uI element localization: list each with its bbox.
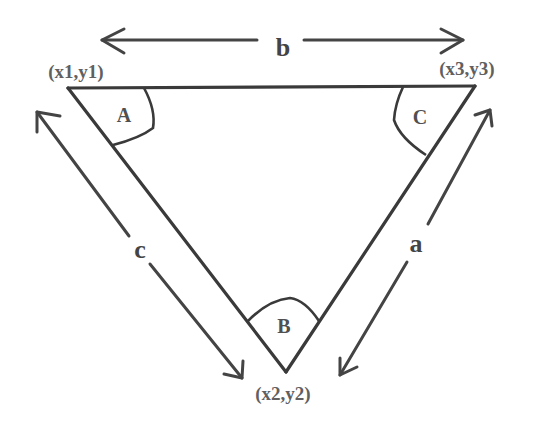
vertex-3-label: (x3,y3) <box>439 58 494 80</box>
side-c-label: c <box>134 235 146 264</box>
angle-c-label: C <box>413 106 427 128</box>
side-a-edge <box>286 86 475 372</box>
side-b-edge <box>68 86 475 88</box>
side-a-label: a <box>410 229 423 258</box>
vertex-1-label: (x1,y1) <box>48 61 103 83</box>
vertex-2-label: (x2,y2) <box>255 383 310 405</box>
angle-a-label: A <box>117 104 132 126</box>
angle-b-label: B <box>277 315 290 337</box>
triangle-diagram: b c a A B C (x1,y1) (x3,y3) (x2,y2) <box>0 0 544 427</box>
side-b-label: b <box>276 33 290 62</box>
side-c-edge <box>68 88 286 372</box>
